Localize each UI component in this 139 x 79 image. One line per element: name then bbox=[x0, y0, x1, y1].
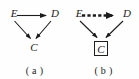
panel-b-caption: ( b ) bbox=[69, 65, 138, 76]
panel-b: E D C ( b ) bbox=[69, 0, 138, 79]
edge-e-to-c bbox=[15, 21, 31, 39]
figure-container: E D C ( a ) E D C bbox=[0, 0, 139, 79]
node-c-panel-a: C bbox=[27, 42, 41, 53]
node-d-panel-a: D bbox=[48, 8, 62, 19]
node-c-panel-b-label: C bbox=[95, 43, 107, 55]
panel-a: E D C ( a ) bbox=[0, 0, 69, 79]
node-c-panel-b-box: C bbox=[94, 41, 108, 56]
edge-e-to-c bbox=[80, 21, 97, 38]
node-e-panel-b: E bbox=[72, 8, 86, 19]
node-d-panel-b: D bbox=[120, 8, 134, 19]
edge-d-to-c bbox=[106, 21, 123, 38]
panel-a-caption: ( a ) bbox=[0, 65, 69, 76]
edge-d-to-c bbox=[36, 21, 51, 39]
node-e-panel-a: E bbox=[7, 8, 21, 19]
